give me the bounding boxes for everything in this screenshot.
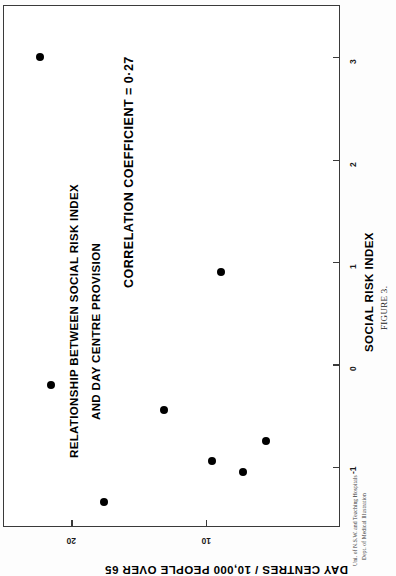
figure-caption: FIGURE 3. — [379, 286, 389, 330]
y-axis-tick-label: 10 — [202, 536, 211, 546]
data-point — [47, 381, 55, 389]
data-point — [208, 457, 216, 465]
x-axis-tick — [333, 262, 339, 263]
x-axis-tick — [333, 364, 339, 365]
x-axis-tick-label: 1 — [348, 264, 358, 269]
y-axis-title: DAY CENTRES / 10,000 PEOPLE OVER 65 — [105, 564, 348, 576]
x-axis-tick — [333, 57, 339, 58]
credit-line-2: Dept. of Medical Illustration — [361, 493, 367, 560]
data-point — [100, 498, 108, 506]
chart-title-line-2: AND DAY CENTRE PROVISION — [90, 243, 102, 420]
x-axis-tick — [333, 160, 339, 161]
x-axis-tick-label: -1 — [348, 466, 358, 474]
data-point — [217, 268, 225, 276]
x-axis-tick-label: 0 — [348, 367, 358, 372]
plot-frame — [3, 5, 340, 527]
x-axis-tick — [333, 467, 339, 468]
y-axis-tick — [206, 520, 207, 526]
x-axis-tick-label: 2 — [348, 162, 358, 167]
y-axis-tick — [71, 520, 72, 526]
data-point — [262, 437, 270, 445]
y-axis-tick-label: 20 — [67, 536, 76, 546]
data-point — [239, 468, 247, 476]
data-point — [160, 406, 168, 414]
credit-line-1: Uni. of N.S.W. and Teaching Hospitals — [352, 475, 358, 566]
chart-title-line-1: RELATIONSHIP BETWEEN SOCIAL RISK INDEX — [68, 184, 80, 458]
figure-page: RELATIONSHIP BETWEEN SOCIAL RISK INDEX A… — [0, 0, 396, 576]
x-axis-tick-label: 3 — [348, 59, 358, 64]
correlation-coefficient-note: CORRELATION COEFFICIENT = 0·27 — [122, 56, 136, 288]
x-axis-title: SOCIAL RISK INDEX — [363, 232, 375, 352]
data-point — [36, 53, 44, 61]
